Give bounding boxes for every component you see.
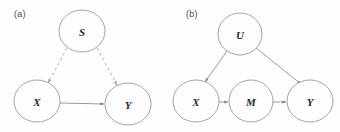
node-a-s[interactable]: S: [59, 10, 105, 52]
panel-b-group: U X M Y: [173, 13, 333, 122]
causal-diagram-figure: (a) (b) S: [0, 0, 340, 132]
panel-a-group: S X Y: [14, 10, 151, 125]
edge-a-s-to-y: [97, 48, 117, 85]
node-a-x-label: X: [32, 96, 41, 108]
edge-b-u-to-x: [205, 51, 227, 82]
node-b-y[interactable]: Y: [287, 80, 333, 122]
node-b-u[interactable]: U: [218, 13, 262, 55]
edge-a-s-to-x: [48, 48, 67, 83]
node-a-s-label: S: [79, 26, 85, 38]
node-b-m[interactable]: M: [229, 80, 273, 122]
node-b-m-label: M: [245, 96, 257, 108]
edge-b-u-to-y: [256, 48, 301, 84]
node-b-u-label: U: [236, 29, 245, 41]
node-b-x-label: X: [191, 96, 200, 108]
node-a-x[interactable]: X: [14, 80, 60, 122]
edge-a-x-to-y: [60, 103, 104, 104]
node-a-y[interactable]: Y: [105, 83, 151, 125]
node-b-x[interactable]: X: [173, 80, 219, 122]
diagram-canvas: S X Y U: [0, 0, 340, 132]
